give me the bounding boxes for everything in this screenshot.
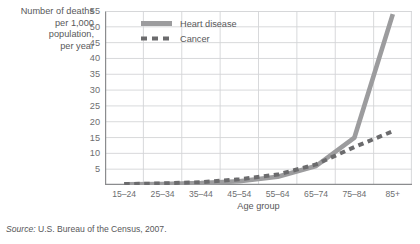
legend-item-heart-disease: Heart disease (141, 16, 237, 31)
y-tick-label: 5 (95, 164, 100, 174)
legend-swatch-solid-icon (141, 18, 172, 29)
legend-label-cancer: Cancer (180, 34, 210, 44)
x-axis-label: Age group (105, 201, 412, 211)
y-axis-title-line-4: per year (2, 41, 94, 53)
y-tick-label: 55 (90, 6, 100, 16)
legend-item-cancer: Cancer (141, 31, 237, 46)
x-tick-label: 25–34 (151, 189, 175, 199)
source-text: U.S. Bureau of the Census, 2007. (36, 224, 167, 234)
y-axis-title: Number of deaths per 1,000 population, p… (2, 6, 94, 52)
y-tick-label: 20 (90, 117, 100, 127)
x-tick-label: 55–64 (266, 189, 290, 199)
y-axis-title-line-1: Number of deaths (2, 6, 94, 18)
chart-figure: Number of deaths per 1,000 population, p… (0, 0, 420, 244)
x-tick-label: 75–84 (342, 189, 366, 199)
x-tick-label: 85+ (386, 189, 401, 199)
y-tick-label: 45 (90, 38, 100, 48)
y-tick-label: 50 (90, 22, 100, 32)
x-tick-label: 15–24 (112, 189, 136, 199)
source-note: Source: U.S. Bureau of the Census, 2007. (6, 224, 167, 234)
legend-swatch-dashed-icon (141, 33, 172, 44)
y-axis-title-line-2: per 1,000 (2, 18, 94, 30)
y-tick-label: 35 (90, 69, 100, 79)
x-tick-label: 65–74 (304, 189, 328, 199)
y-tick-label: 40 (90, 53, 100, 63)
y-tick-label: 25 (90, 101, 100, 111)
x-tick-label: 45–54 (227, 189, 251, 199)
y-tick-label: 30 (90, 85, 100, 95)
legend-label-heart-disease: Heart disease (180, 19, 237, 29)
y-tick-label: 15 (90, 133, 100, 143)
source-prefix: Source: (6, 224, 36, 234)
y-tick-label: 10 (90, 148, 100, 158)
x-tick-label: 35–44 (189, 189, 213, 199)
y-axis-title-line-3: population, (2, 29, 94, 41)
chart-legend: Heart disease Cancer (141, 16, 237, 46)
